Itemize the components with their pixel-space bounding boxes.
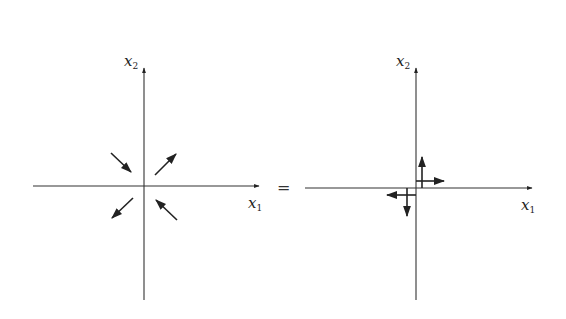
- right-x-axis-label: x1: [521, 196, 535, 215]
- right-plot: x2 x1: [305, 52, 535, 300]
- diagram-canvas: x2 x1 = x2 x1: [0, 0, 566, 319]
- right-y-axis-label: x2: [396, 52, 410, 71]
- left-x-axis-label: x1: [248, 194, 262, 213]
- arrow-upper-left-icon: [111, 153, 131, 172]
- equals-sign: =: [277, 178, 290, 197]
- left-plot: x2 x1: [33, 52, 262, 300]
- arrow-upper-right-icon: [155, 154, 176, 175]
- left-y-axis-label: x2: [124, 52, 138, 71]
- arrow-lower-right-icon: [156, 200, 177, 220]
- arrow-lower-left-icon: [112, 198, 133, 218]
